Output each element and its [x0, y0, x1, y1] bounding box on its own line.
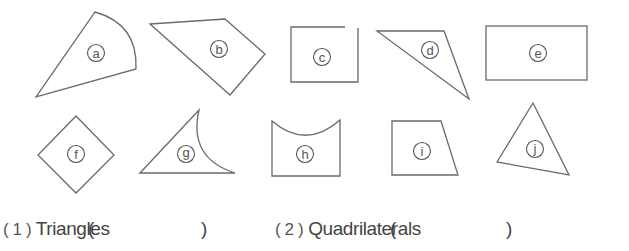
- shape-d: d: [377, 31, 469, 99]
- shape-f: f: [38, 116, 114, 193]
- shape-i-label: i: [421, 144, 424, 159]
- question-2-answer-slot[interactable]: [402, 218, 502, 244]
- shapes-figure: a b c d e f g h: [0, 0, 629, 251]
- shape-d-outline: [377, 31, 469, 99]
- shape-a-label: a: [92, 46, 100, 61]
- shape-e-label: e: [534, 46, 541, 61]
- shape-b: b: [150, 19, 265, 95]
- question-1-number: ( 1 ): [3, 220, 31, 239]
- shape-f-label: f: [74, 147, 78, 162]
- shape-h-label: h: [301, 147, 308, 162]
- shape-i: i: [392, 121, 458, 175]
- question-1-close-paren: ): [201, 218, 207, 240]
- question-2-number: ( 2 ): [275, 220, 303, 239]
- shape-a: a: [36, 12, 136, 97]
- question-2-close-paren: ): [506, 218, 512, 240]
- shape-g-outline: [140, 110, 235, 173]
- question-row: ( 1 ) Triangles ( ) ( 2 ) Quadrilaterals…: [0, 218, 629, 248]
- shape-d-label: d: [426, 43, 433, 58]
- shape-b-outline: [150, 19, 265, 95]
- question-1-open-paren: (: [88, 218, 94, 240]
- shape-c-label: c: [319, 50, 326, 65]
- shape-j-label: j: [533, 141, 537, 156]
- shape-a-outline: [36, 12, 136, 97]
- question-1-text: Triangles: [36, 218, 110, 239]
- question-2-open-paren: (: [390, 218, 396, 240]
- shape-g: g: [140, 110, 235, 173]
- shape-j: j: [497, 103, 569, 175]
- shape-g-label: g: [182, 145, 189, 160]
- question-quadrilaterals: ( 2 ) Quadrilaterals: [275, 218, 421, 240]
- shape-h: h: [272, 120, 340, 176]
- shape-e: e: [486, 26, 587, 80]
- shape-c: c: [291, 27, 358, 82]
- shape-b-label: b: [215, 42, 222, 57]
- shape-j-outline: [497, 103, 569, 175]
- question-1-answer-slot[interactable]: [100, 218, 200, 244]
